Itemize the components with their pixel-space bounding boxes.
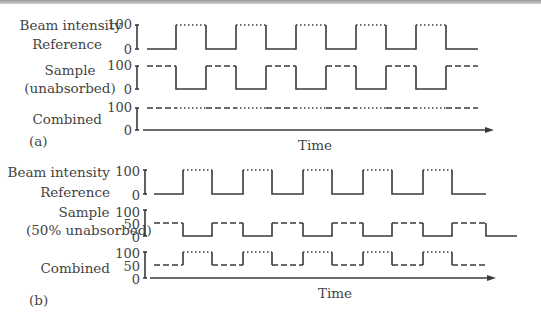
waveform-diagram: [0, 0, 541, 320]
panel-b-sample-wave: [154, 223, 517, 236]
panel-b-reference-wave: [154, 170, 486, 194]
panel-a-axis-bars: [135, 25, 139, 130]
panel-a-reference-wave: [147, 25, 478, 49]
panel-b-time-axis: [150, 275, 496, 281]
panel-a-sample-wave: [147, 66, 478, 89]
panel-a-time-axis: [143, 127, 494, 133]
panel-b-combined-wave: [154, 252, 486, 265]
panel-b-axis-bars: [143, 170, 147, 278]
